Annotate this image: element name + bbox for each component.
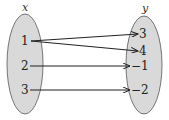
range-label: y [141, 2, 149, 15]
range-element-3: 3 [139, 27, 147, 41]
range-element-4: 4 [139, 44, 147, 58]
domain-element-2: 2 [21, 59, 29, 73]
diagram-canvas: x y 1 2 3 3 4 −1 −2 [0, 0, 169, 120]
domain-element-3: 3 [21, 83, 29, 97]
mapping-diagram: x y 1 2 3 3 4 −1 −2 [0, 0, 169, 120]
arrow-1-to-4 [31, 41, 138, 51]
arrow-1-to-3 [31, 34, 138, 41]
range-element-neg1: −1 [131, 59, 149, 73]
domain-label: x [22, 1, 29, 14]
domain-element-1: 1 [21, 34, 29, 48]
range-element-neg2: −2 [131, 83, 149, 97]
